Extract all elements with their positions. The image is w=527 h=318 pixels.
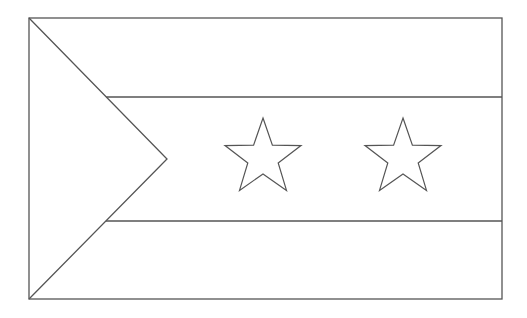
flag-outline [0, 0, 527, 318]
star-icon-left [225, 118, 301, 190]
hoist-triangle [29, 18, 167, 299]
star-icon-right [365, 118, 441, 190]
flag-border [29, 18, 502, 299]
